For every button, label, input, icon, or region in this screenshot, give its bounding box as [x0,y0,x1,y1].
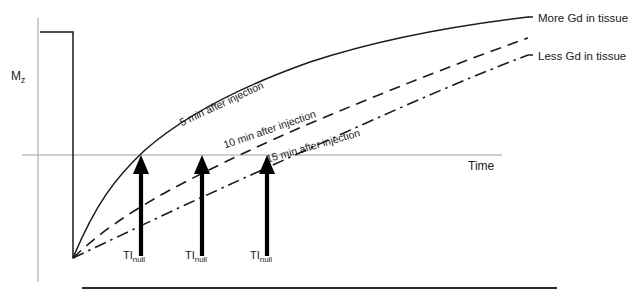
y-axis-label-subscript: z [21,75,25,85]
ti-null-arrow-1 [133,155,149,256]
ti-null-label-1: TInull [123,250,145,264]
legend-label-less-gd: Less Gd in tissue [538,51,626,63]
ti-null-label-2: TInull [185,250,207,264]
ti-null-label-2-text: TI [185,249,195,261]
ti-null-label-2-subscript: null [195,255,207,264]
ti-null-arrow-2 [194,155,210,256]
ti-null-arrow-3 [259,155,275,256]
ti-null-label-1-text: TI [123,249,133,261]
ti-null-label-3-subscript: null [260,255,272,264]
legend-label-more-gd: More Gd in tissue [538,13,628,25]
ti-null-label-3: TInull [250,250,272,264]
ti-null-label-1-subscript: null [133,255,145,264]
inversion-pulse-path [40,32,73,258]
ti-null-label-3-text: TI [250,249,260,261]
y-axis-label-text: M [11,69,21,83]
x-axis-label: Time [468,160,494,172]
figure-canvas: Mz Time More Gd in tissue Less Gd in tis… [0,0,629,300]
y-axis-label: Mz [11,70,25,85]
